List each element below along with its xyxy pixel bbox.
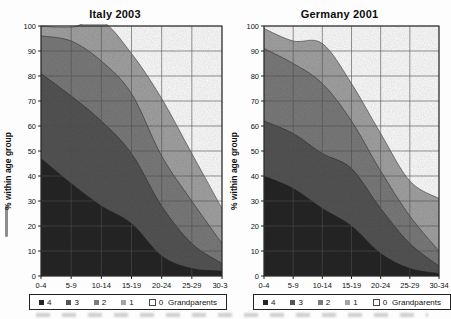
svg-text:40: 40 [28, 172, 36, 181]
svg-text:50: 50 [251, 147, 259, 156]
svg-text:10: 10 [28, 247, 36, 256]
legend-marker-1 [121, 300, 126, 305]
legend-marker-1 [345, 300, 350, 305]
legend-item-4: 4 [39, 298, 51, 307]
legend-label: 1 [129, 298, 133, 307]
italy-plot-area: 10090807060504030201000-45-910-1415-1920… [2, 24, 228, 292]
svg-text:100: 100 [246, 24, 259, 31]
legend-marker-3 [290, 300, 295, 305]
svg-text:30-34: 30-34 [429, 281, 448, 290]
legend-marker-0 [149, 299, 156, 306]
svg-text:20: 20 [251, 222, 259, 231]
legend-marker-2 [94, 300, 99, 305]
legend-label: 2 [326, 298, 330, 307]
legend-marker-3 [66, 300, 71, 305]
svg-text:15-19: 15-19 [122, 281, 141, 290]
svg-text:60: 60 [28, 122, 36, 131]
legend-label: 0 [159, 298, 163, 307]
cropped-caption-fragment [36, 313, 428, 317]
legend-suffix: Grandparents [392, 298, 441, 307]
legend-item-0-grandparents: 0 Grandparents [373, 298, 441, 307]
legend-item-4: 4 [263, 298, 275, 307]
legend-label: 3 [298, 298, 302, 307]
legend-marker-4 [263, 300, 268, 305]
svg-text:0-4: 0-4 [36, 281, 47, 290]
chart-title-germany: Germany 2001 [228, 2, 451, 24]
svg-text:70: 70 [28, 97, 36, 106]
chart-italy: Italy 2003 10090807060504030201000-45-91… [2, 2, 228, 310]
svg-text:10-14: 10-14 [313, 281, 332, 290]
svg-text:15-19: 15-19 [342, 281, 361, 290]
legend-label: 3 [74, 298, 78, 307]
svg-text:30-34: 30-34 [212, 281, 228, 290]
legend-label: 2 [102, 298, 106, 307]
svg-text:25-29: 25-29 [182, 281, 201, 290]
svg-text:% within age group: % within age group [229, 132, 239, 210]
grandparents-survival-figure: Italy 2003 10090807060504030201000-45-91… [0, 0, 451, 319]
legend-marker-0 [373, 299, 380, 306]
svg-text:0: 0 [32, 272, 36, 281]
svg-text:20-24: 20-24 [152, 281, 171, 290]
svg-text:5-9: 5-9 [66, 281, 77, 290]
svg-text:5-9: 5-9 [288, 281, 299, 290]
svg-text:0-4: 0-4 [259, 281, 270, 290]
legend-germany: 4 3 2 1 0 Grandparents [253, 294, 451, 310]
svg-text:50: 50 [28, 147, 36, 156]
legend-italy: 4 3 2 1 0 Grandparents [29, 294, 227, 310]
legend-label: 0 [383, 298, 387, 307]
legend-item-3: 3 [66, 298, 78, 307]
svg-text:20: 20 [28, 222, 36, 231]
svg-text:% within age group: % within age group [3, 132, 13, 210]
svg-text:30: 30 [28, 197, 36, 206]
chart-germany: Germany 2001 10090807060504030201000-45-… [228, 2, 451, 310]
legend-marker-2 [318, 300, 323, 305]
svg-text:10-14: 10-14 [92, 281, 111, 290]
svg-text:25-29: 25-29 [400, 281, 419, 290]
svg-text:100: 100 [23, 24, 36, 31]
legend-item-1: 1 [121, 298, 133, 307]
germany-plot-area: 10090807060504030201000-45-910-1415-1920… [228, 24, 451, 292]
svg-text:40: 40 [251, 172, 259, 181]
svg-text:90: 90 [28, 47, 36, 56]
legend-suffix: Grandparents [168, 298, 217, 307]
legend-item-2: 2 [94, 298, 106, 307]
legend-item-2: 2 [318, 298, 330, 307]
chart-title-italy: Italy 2003 [2, 2, 228, 24]
svg-text:80: 80 [251, 72, 259, 81]
legend-label: 1 [353, 298, 357, 307]
legend-item-0-grandparents: 0 Grandparents [149, 298, 217, 307]
svg-text:20-24: 20-24 [371, 281, 390, 290]
legend-label: 4 [47, 298, 51, 307]
svg-text:80: 80 [28, 72, 36, 81]
svg-text:70: 70 [251, 97, 259, 106]
legend-label: 4 [271, 298, 275, 307]
legend-marker-4 [39, 300, 44, 305]
svg-text:0: 0 [255, 272, 259, 281]
svg-text:90: 90 [251, 47, 259, 56]
svg-text:10: 10 [251, 247, 259, 256]
scan-artifact [5, 205, 8, 237]
legend-item-3: 3 [290, 298, 302, 307]
svg-text:30: 30 [251, 197, 259, 206]
svg-text:60: 60 [251, 122, 259, 131]
legend-item-1: 1 [345, 298, 357, 307]
